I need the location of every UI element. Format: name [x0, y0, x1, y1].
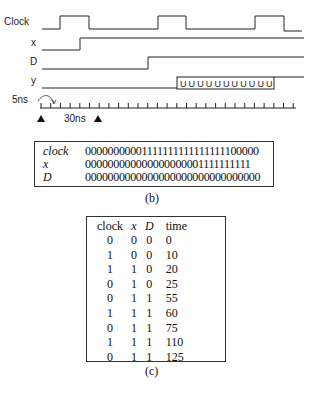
cell-time: 125 — [158, 350, 191, 365]
span-label: 30ns — [64, 113, 86, 124]
clock-waveform — [42, 16, 302, 31]
header-clock: clock — [93, 219, 127, 233]
x-waveform — [42, 38, 304, 50]
panel-c-caption: (c) — [145, 364, 158, 379]
arrow-head-icon — [52, 100, 56, 104]
cell-d: 1 — [141, 321, 158, 336]
header-d: D — [141, 219, 158, 233]
cell-clock: 1 — [93, 335, 127, 350]
cell-x: 0 — [127, 248, 141, 263]
header-time: time — [158, 219, 191, 233]
unknown-symbol: U — [240, 79, 247, 89]
cell-d: 1 — [141, 306, 158, 321]
unknown-symbol: U — [180, 79, 187, 89]
marker-triangle-end-icon — [94, 115, 102, 122]
d-waveform — [42, 57, 304, 69]
cell-x: 1 — [127, 262, 141, 277]
cell-clock: 0 — [93, 277, 127, 292]
unknown-symbol: U — [189, 79, 196, 89]
unknown-symbol: U — [206, 79, 213, 89]
bitstream-bits: 0000000000000000000000000000000 — [85, 170, 260, 185]
signal-label-d: D — [30, 56, 37, 67]
cell-x: 1 — [127, 321, 141, 336]
unknown-symbol: U — [214, 79, 221, 89]
event-table: clock x D time 0000100101102001025011551… — [93, 219, 191, 364]
cell-clock: 0 — [93, 350, 127, 365]
cell-time: 60 — [158, 306, 191, 321]
cell-d: 0 — [141, 248, 158, 263]
unknown-symbol: U — [257, 79, 264, 89]
table-row: 0000 — [93, 233, 191, 248]
signal-label-clock: Clock — [4, 16, 30, 27]
cell-time: 110 — [158, 335, 191, 350]
cell-x: 1 — [127, 306, 141, 321]
table-row: 11020 — [93, 262, 191, 277]
cell-time: 10 — [158, 248, 191, 263]
unknown-symbol: U — [197, 79, 204, 89]
unknown-symbol: U — [223, 79, 230, 89]
timing-diagram: Clock x D y UUUUUUUUUUU 5ns 30ns — [0, 0, 314, 130]
table-row: 01025 — [93, 277, 191, 292]
cell-x: 1 — [127, 335, 141, 350]
cell-clock: 1 — [93, 262, 127, 277]
unknown-symbol: U — [249, 79, 256, 89]
cell-x: 1 — [127, 350, 141, 365]
signal-label-y: y — [31, 75, 36, 86]
y-unknown-symbols: UUUUUUUUUUU — [180, 79, 273, 89]
table-row: 011125 — [93, 350, 191, 365]
table-row: 10010 — [93, 248, 191, 263]
bitstream-name: D — [43, 170, 52, 185]
table-row: 11160 — [93, 306, 191, 321]
panel-b-caption: (b) — [145, 191, 159, 206]
tick-interval-label: 5ns — [12, 94, 28, 105]
cell-time: 25 — [158, 277, 191, 292]
cell-time: 55 — [158, 291, 191, 306]
unknown-symbol: U — [232, 79, 239, 89]
cell-d: 1 — [141, 335, 158, 350]
cell-time: 75 — [158, 321, 191, 336]
tick-interval-arrow — [38, 96, 54, 103]
cell-clock: 0 — [93, 291, 127, 306]
cell-clock: 1 — [93, 248, 127, 263]
cell-clock: 1 — [93, 306, 127, 321]
table-row: 01175 — [93, 321, 191, 336]
cell-time: 0 — [158, 233, 191, 248]
unknown-symbol: U — [266, 79, 273, 89]
panel-c-table-box: clock x D time 0000100101102001025011551… — [86, 216, 226, 362]
table-header-row: clock x D time — [93, 219, 191, 233]
signal-label-x: x — [31, 37, 36, 48]
marker-triangle-start-icon — [37, 115, 45, 122]
time-axis-ticks — [41, 103, 293, 108]
table-row: 01155 — [93, 291, 191, 306]
cell-clock: 0 — [93, 233, 127, 248]
cell-time: 20 — [158, 262, 191, 277]
cell-x: 0 — [127, 233, 141, 248]
cell-x: 1 — [127, 277, 141, 292]
cell-d: 1 — [141, 291, 158, 306]
cell-d: 0 — [141, 277, 158, 292]
cell-d: 0 — [141, 233, 158, 248]
table-row: 111110 — [93, 335, 191, 350]
cell-x: 1 — [127, 291, 141, 306]
panel-b-bitstream-box: clock 00000000001111111111111111100000 x… — [34, 141, 274, 187]
cell-d: 0 — [141, 262, 158, 277]
cell-clock: 0 — [93, 321, 127, 336]
header-x: x — [127, 219, 141, 233]
cell-d: 1 — [141, 350, 158, 365]
